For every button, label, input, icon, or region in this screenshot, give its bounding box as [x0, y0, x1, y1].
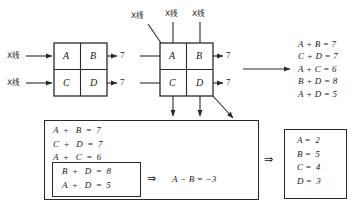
- inner-row-1: B + D = 8: [62, 166, 111, 176]
- middle-grid-cell-a: A: [169, 51, 175, 61]
- derived-equation: A − B = −3: [172, 175, 217, 184]
- middle-grid-input-label-1: X线: [131, 12, 143, 20]
- left-grid-input-label-2: X线: [7, 79, 19, 87]
- left-grid-cell-a: A: [63, 51, 69, 61]
- left-grid-cell-c: C: [63, 78, 70, 88]
- middle-grid-left-input-lines: [140, 56, 160, 83]
- solution-implies-symbol: ⇒: [264, 154, 273, 165]
- left-grid-output-1: 7: [120, 51, 125, 60]
- figure-canvas: X线 X线 A B C D 7 7 X线 X线 X线 A B C D 7 7 A…: [0, 0, 353, 203]
- equation-line-3: A + C = 6: [298, 64, 338, 74]
- solution-row-a: A = 2: [297, 135, 321, 145]
- middle-grid-bottom-output-arrows: [173, 96, 233, 118]
- middle-grid-box: [160, 43, 213, 96]
- equation-line-4: B + D = 8: [298, 76, 338, 86]
- inner-row-2: A + D = 5: [62, 180, 111, 190]
- equation-line-2: C + D = 7: [298, 51, 338, 61]
- middle-grid-top-input-lines: [148, 22, 200, 43]
- equations-list: A + B = 7 C + D = 7 A + C = 6 B + D = 8 …: [298, 39, 338, 101]
- system-matrix-outer-rows: A + B = 7 C + D = 7 A + C = 6: [53, 125, 102, 166]
- middle-grid-output-1: 7: [226, 51, 231, 60]
- middle-grid-cell-d: D: [196, 78, 203, 88]
- solution-matrix-rows: A = 2 B = 5 C = 4 D = 3: [297, 135, 321, 189]
- middle-grid-output-2: 7: [226, 78, 231, 87]
- system-row-1: A + B = 7: [53, 125, 102, 135]
- equation-line-1: A + B = 7: [298, 39, 338, 49]
- middle-grid-cell-b: B: [196, 51, 202, 61]
- middle-grid-input-label-2: X线: [165, 10, 177, 18]
- middle-grid-input-label-3: X线: [192, 10, 204, 18]
- inner-implies-symbol: ⇒: [147, 173, 156, 184]
- middle-grid-cell-c: C: [169, 78, 176, 88]
- solution-row-d: D = 3: [297, 176, 321, 186]
- left-grid-input-arrows: [26, 56, 52, 83]
- left-grid-input-label-1: X线: [7, 52, 19, 60]
- solution-row-c: C = 4: [297, 162, 321, 172]
- system-row-3: A + C = 6: [53, 152, 102, 162]
- inner-matrix-rows: B + D = 8 A + D = 5: [62, 166, 111, 193]
- left-grid-cell-d: D: [90, 78, 97, 88]
- left-grid-cell-b: B: [90, 51, 96, 61]
- equation-line-5: A + D = 5: [298, 89, 338, 99]
- system-row-2: C + D = 7: [53, 139, 102, 149]
- left-grid-output-2: 7: [120, 78, 125, 87]
- left-grid-output-arrows: [107, 56, 117, 83]
- middle-grid-output-arrows: [213, 56, 223, 83]
- left-grid-box: [54, 43, 107, 96]
- solution-row-b: B = 5: [297, 149, 321, 159]
